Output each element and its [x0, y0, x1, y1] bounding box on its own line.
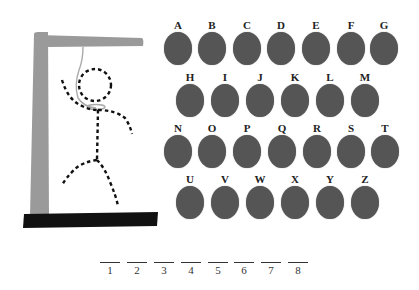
letter-disc[interactable] — [176, 84, 204, 117]
letter-disc[interactable] — [303, 135, 331, 168]
letter-button-u[interactable]: U — [175, 173, 205, 221]
letter-button-y[interactable]: Y — [315, 173, 345, 221]
letter-label: S — [336, 122, 366, 134]
letter-button-z[interactable]: Z — [350, 173, 380, 221]
letter-label: X — [280, 173, 310, 185]
letter-button-a[interactable]: A — [163, 19, 193, 67]
letter-label: P — [232, 122, 262, 134]
figure-arm-left — [62, 80, 98, 110]
letter-button-i[interactable]: I — [210, 71, 240, 119]
letter-label: H — [175, 71, 205, 83]
letter-button-g[interactable]: G — [369, 19, 399, 67]
letter-disc[interactable] — [198, 135, 226, 168]
letter-button-b[interactable]: B — [197, 19, 227, 67]
letter-label: Q — [267, 122, 297, 134]
letter-disc[interactable] — [268, 135, 296, 168]
slot-number: 4 — [181, 264, 201, 276]
letter-button-q[interactable]: Q — [267, 122, 297, 170]
letter-disc[interactable] — [246, 186, 274, 219]
letter-button-x[interactable]: X — [280, 173, 310, 221]
hangman-drawing — [0, 0, 170, 240]
letter-disc[interactable] — [337, 135, 365, 168]
slot-underline — [208, 262, 228, 263]
slot-underline — [181, 262, 201, 263]
letter-label: F — [336, 19, 366, 31]
letter-button-c[interactable]: C — [232, 19, 262, 67]
letter-label: M — [350, 71, 380, 83]
slot-underline — [261, 262, 281, 263]
letter-button-n[interactable]: N — [163, 122, 193, 170]
word-slot-4: 4 — [181, 262, 201, 282]
gallows-beam — [38, 35, 143, 47]
word-slot-6: 6 — [234, 262, 254, 282]
letter-label: B — [197, 19, 227, 31]
letter-disc[interactable] — [302, 32, 330, 65]
letter-disc[interactable] — [176, 186, 204, 219]
letter-disc[interactable] — [164, 32, 192, 65]
letter-button-p[interactable]: P — [232, 122, 262, 170]
letter-button-d[interactable]: D — [266, 19, 296, 67]
letter-disc[interactable] — [316, 84, 344, 117]
letter-disc[interactable] — [246, 84, 274, 117]
letter-label: K — [280, 71, 310, 83]
letter-label: A — [163, 19, 193, 31]
word-slot-8: 8 — [288, 262, 308, 282]
letter-button-o[interactable]: O — [197, 122, 227, 170]
letter-label: Z — [350, 173, 380, 185]
letter-disc[interactable] — [281, 186, 309, 219]
letter-button-e[interactable]: E — [301, 19, 331, 67]
word-slot-1: 1 — [100, 262, 120, 282]
word-slot-5: 5 — [208, 262, 228, 282]
slot-underline — [100, 262, 120, 263]
letter-button-l[interactable]: L — [315, 71, 345, 119]
figure-leg-right — [97, 160, 118, 206]
word-slot-2: 2 — [127, 262, 147, 282]
letter-label: J — [245, 71, 275, 83]
letter-disc[interactable] — [371, 135, 399, 168]
slot-number: 2 — [127, 264, 147, 276]
letter-disc[interactable] — [316, 186, 344, 219]
letter-button-h[interactable]: H — [175, 71, 205, 119]
letter-label: I — [210, 71, 240, 83]
letter-button-v[interactable]: V — [210, 173, 240, 221]
letter-label: G — [369, 19, 399, 31]
figure-leg-left — [62, 160, 97, 185]
slot-underline — [154, 262, 174, 263]
letter-label: N — [163, 122, 193, 134]
letter-button-s[interactable]: S — [336, 122, 366, 170]
figure-arm-right — [98, 110, 132, 134]
gallows-post — [30, 32, 49, 216]
word-slot-3: 3 — [154, 262, 174, 282]
slot-number: 6 — [234, 264, 254, 276]
letter-label: W — [245, 173, 275, 185]
slot-number: 7 — [261, 264, 281, 276]
slot-number: 8 — [288, 264, 308, 276]
letter-disc[interactable] — [370, 32, 398, 65]
letter-button-r[interactable]: R — [302, 122, 332, 170]
letter-button-w[interactable]: W — [245, 173, 275, 221]
letter-button-t[interactable]: T — [370, 122, 400, 170]
letter-disc[interactable] — [211, 186, 239, 219]
letter-button-f[interactable]: F — [336, 19, 366, 67]
letter-disc[interactable] — [351, 186, 379, 219]
letter-label: L — [315, 71, 345, 83]
slot-number: 3 — [154, 264, 174, 276]
letter-disc[interactable] — [211, 84, 239, 117]
letter-disc[interactable] — [351, 84, 379, 117]
letter-button-j[interactable]: J — [245, 71, 275, 119]
letter-disc[interactable] — [267, 32, 295, 65]
gallows-base — [23, 212, 158, 228]
letter-disc[interactable] — [233, 135, 261, 168]
letter-button-k[interactable]: K — [280, 71, 310, 119]
letter-disc[interactable] — [164, 135, 192, 168]
letter-label: E — [301, 19, 331, 31]
letter-label: D — [266, 19, 296, 31]
letter-disc[interactable] — [281, 84, 309, 117]
letter-button-m[interactable]: M — [350, 71, 380, 119]
letter-disc[interactable] — [198, 32, 226, 65]
figure-head — [79, 69, 111, 101]
letter-disc[interactable] — [337, 32, 365, 65]
rope — [76, 47, 105, 110]
figure-body — [97, 110, 98, 160]
letter-disc[interactable] — [233, 32, 261, 65]
